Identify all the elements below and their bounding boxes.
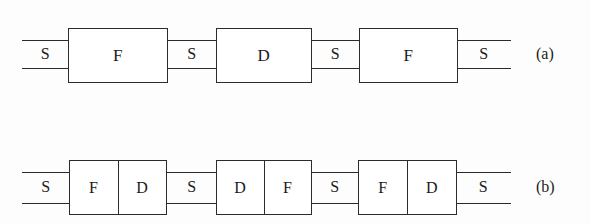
panel-b-block-pair-2: D F [216, 160, 312, 215]
panel-b-segment-label-1: S [22, 179, 70, 195]
panel-b-block-pair-1-left: F [70, 161, 118, 214]
wire-a-upper-segment-2 [167, 40, 217, 41]
wire-a-upper-segment-3 [311, 40, 360, 41]
wire-a-lower-segment-2 [167, 68, 217, 69]
panel-b-block-pair-3-left-label: F [378, 180, 387, 196]
wire-b-lower-segment-2 [167, 203, 217, 204]
panel-b-block-pair-1: F D [69, 160, 167, 215]
panel-b-block-pair-2-right: F [264, 161, 312, 214]
panel-b-block-pair-2-right-label: F [283, 180, 292, 196]
panel-a-segment-label-4: S [457, 46, 511, 62]
wire-a-lower-segment-1 [22, 68, 69, 69]
wire-b-lower-segment-1 [22, 203, 70, 204]
panel-b-block-pair-1-right-label: D [136, 180, 148, 196]
panel-b-block-pair-1-left-label: F [89, 180, 98, 196]
panel-a-segment-label-3: S [311, 46, 360, 62]
wire-a-upper-segment-1 [22, 40, 69, 41]
panel-b-block-pair-3: F D [358, 160, 457, 215]
wire-a-upper-segment-4 [457, 40, 511, 41]
wire-b-upper-segment-2 [167, 172, 217, 173]
panel-b-caption: (b) [536, 179, 555, 195]
panel-a-caption: (a) [536, 46, 554, 62]
wire-b-upper-segment-1 [22, 172, 70, 173]
panel-a-segment-label-2: S [167, 46, 217, 62]
panel-a-block-3-label: F [404, 47, 414, 64]
panel-a-block-1-label: F [113, 47, 123, 64]
panel-a-block-2-label: D [258, 47, 271, 64]
wire-b-lower-segment-3 [311, 203, 359, 204]
panel-b-segment-label-2: S [167, 179, 217, 195]
panel-b: S S S S F D D F F D [0, 112, 591, 224]
wire-b-lower-segment-4 [456, 203, 511, 204]
panel-a-block-3: F [359, 28, 458, 83]
panel-a-segment-label-1: S [22, 46, 69, 62]
wire-a-lower-segment-4 [457, 68, 511, 69]
figure-transmission-line-sections: S S S S F D F (a) S S S S [0, 0, 591, 224]
panel-a-block-2: D [216, 28, 312, 83]
panel-b-block-pair-2-left: D [217, 161, 264, 214]
panel-b-block-pair-3-left: F [359, 161, 407, 214]
panel-b-block-pair-2-left-label: D [234, 180, 246, 196]
panel-b-block-pair-3-right-label: D [426, 180, 438, 196]
wire-b-upper-segment-3 [311, 172, 359, 173]
panel-b-block-pair-3-right: D [407, 161, 456, 214]
panel-b-block-pair-1-right: D [118, 161, 167, 214]
wire-a-lower-segment-3 [311, 68, 360, 69]
panel-a: S S S S F D F (a) [0, 0, 591, 112]
panel-b-segment-label-4: S [456, 179, 511, 195]
panel-a-block-1: F [68, 28, 168, 83]
panel-b-segment-label-3: S [311, 179, 359, 195]
wire-b-upper-segment-4 [456, 172, 511, 173]
